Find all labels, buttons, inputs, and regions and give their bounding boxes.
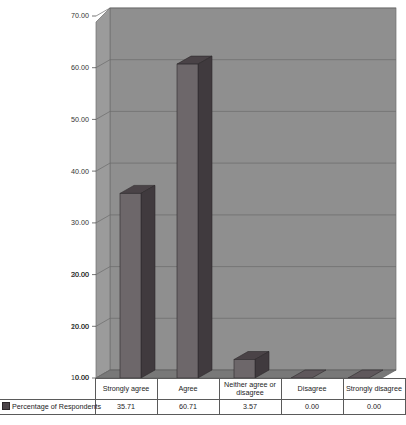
bar-front-face bbox=[234, 360, 255, 379]
bar-side-face bbox=[141, 185, 155, 378]
table-column-header: Disagree bbox=[281, 379, 343, 400]
category-label: Strongly disagree bbox=[344, 385, 405, 393]
category-label: Agree bbox=[158, 385, 219, 393]
table-cell-value: 35.71 bbox=[95, 400, 157, 415]
bar-front-face bbox=[177, 64, 198, 378]
table-column-header: Strongly agree bbox=[95, 379, 157, 400]
table-cell-value: 0.00 bbox=[281, 400, 343, 415]
table-column-header: Strongly disagree bbox=[343, 379, 405, 400]
y-tick-label: 50.00 bbox=[71, 115, 89, 124]
table-column-header: Agree bbox=[157, 379, 219, 400]
y-tick-label-20: 20.00 bbox=[71, 270, 89, 279]
y-tick-label: 60.00 bbox=[71, 63, 89, 72]
category-label: Neither agree or disagree bbox=[220, 381, 281, 397]
bar-side-face bbox=[198, 56, 212, 378]
table-cell-value: 3.57 bbox=[219, 400, 281, 415]
chart-data-table: Strongly agree Agree Neither agree or di… bbox=[0, 378, 406, 415]
table-header-row: Strongly agree Agree Neither agree or di… bbox=[0, 379, 405, 400]
bar-agree[interactable] bbox=[177, 56, 212, 378]
y-tick-label-10: 10.00 bbox=[71, 322, 89, 331]
bar-front-face bbox=[120, 193, 141, 378]
y-tick-label-30: 30.00 bbox=[71, 218, 89, 227]
table-corner-cell bbox=[0, 379, 95, 400]
category-label: Strongly agree bbox=[96, 385, 157, 393]
series-legend-cell: Percentage of Respondents bbox=[0, 400, 95, 415]
table-row: Percentage of Respondents 35.71 60.71 3.… bbox=[0, 400, 405, 415]
legend-swatch-icon bbox=[2, 402, 10, 410]
bar-strongly-agree[interactable] bbox=[120, 185, 155, 378]
table-cell-value: 60.71 bbox=[157, 400, 219, 415]
table-column-header: Neither agree or disagree bbox=[219, 379, 281, 400]
series-name: Percentage of Respondents bbox=[12, 403, 101, 412]
y-tick-label: 70.00 bbox=[71, 11, 89, 20]
category-label: Disagree bbox=[282, 385, 343, 393]
y-axis-ticks bbox=[92, 16, 96, 378]
table-cell-value: 0.00 bbox=[343, 400, 405, 415]
y-tick-label: 40.00 bbox=[71, 167, 89, 176]
